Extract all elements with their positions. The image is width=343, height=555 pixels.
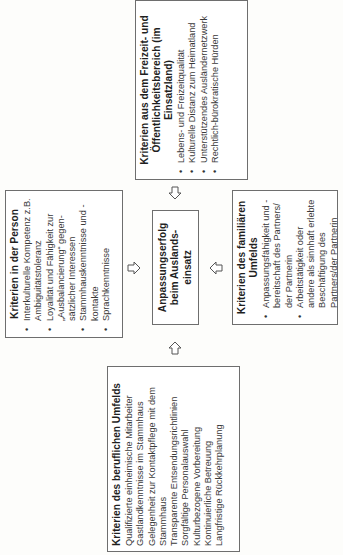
center-adaptation-success: Anpassungserfolg beim Auslands- einsatz — [152, 210, 199, 325]
leisure-item: Lebens- und Freizeitqualität — [176, 6, 187, 174]
professional-item: Qualifizierte einheimische Mitarbeiter — [124, 372, 135, 546]
family-item: Arbeitstätigkeit oder andere als sinnhaf… — [295, 196, 340, 319]
professional-title: Kriterien des beruflichen Umfelds — [111, 372, 123, 546]
person-title: Kriterien in der Person — [9, 196, 21, 332]
leisure-item: Rechtlich-bürokratische Hürden — [210, 6, 221, 174]
person-item: Interkulturelle Kompetenz z.B. Ambiguitä… — [22, 196, 45, 332]
arrow-down-icon — [127, 261, 141, 275]
professional-item: Sorgfältige Personalauswahl — [180, 372, 191, 546]
person-item: Stammhauskenntnisse und -kontakte — [78, 196, 101, 332]
leisure-title-line-2: Öffentlichkeitsbereich (im Einsatzland) — [151, 6, 175, 174]
family-title-line-2: Umfelds — [248, 196, 260, 319]
leisure-title-line-1: Kriterien aus dem Freizeit- und — [139, 6, 151, 174]
box-professional-environment: Kriterien des beruflichen Umfelds Qualif… — [107, 366, 240, 552]
arrow-up-icon — [209, 261, 223, 275]
professional-item: Langfristige Rückkehrplanung — [214, 372, 225, 546]
professional-item: Kontinuierliche Betreuung — [203, 372, 214, 546]
person-item: Sprachkenntnisse — [101, 196, 112, 332]
box-person-criteria: Kriterien in der Person Interkulturelle … — [5, 190, 123, 338]
leisure-item: Unterstützendes Ausländernetzwerk — [199, 6, 210, 174]
box-family-environment: Kriterien des familiären Umfelds Anpassu… — [232, 190, 338, 325]
family-item: Anpassungsfähigkeit und -bereitschaft de… — [261, 196, 295, 319]
box-leisure-public-criteria: Kriterien aus dem Freizeit- und Öffentli… — [135, 0, 248, 180]
leisure-item: Kulturelle Distanz zum Heimatland — [187, 6, 198, 174]
professional-item: Transparente Entsendungsrichtlinien — [169, 372, 180, 546]
arrow-left-icon — [168, 186, 182, 200]
professional-item: Kulturbezogene Vorbereitung — [192, 372, 203, 546]
center-line-1: Anpassungserfolg — [157, 223, 170, 312]
center-line-3: einsatz — [182, 223, 195, 312]
diagram-canvas: Kriterien in der Person Interkulturelle … — [0, 0, 343, 555]
arrow-right-icon — [168, 341, 182, 355]
professional-item: Gastlandkenntnisse im Stammhaus — [135, 372, 146, 546]
professional-item: Gelegenheit zur Kontaktpflege mit dem St… — [147, 372, 170, 546]
person-item: Loyalität und Fähigkeit zur „Ausbalancie… — [45, 196, 79, 332]
family-title-line-1: Kriterien des familiären — [236, 196, 248, 319]
center-line-2: beim Auslands- — [169, 223, 182, 312]
